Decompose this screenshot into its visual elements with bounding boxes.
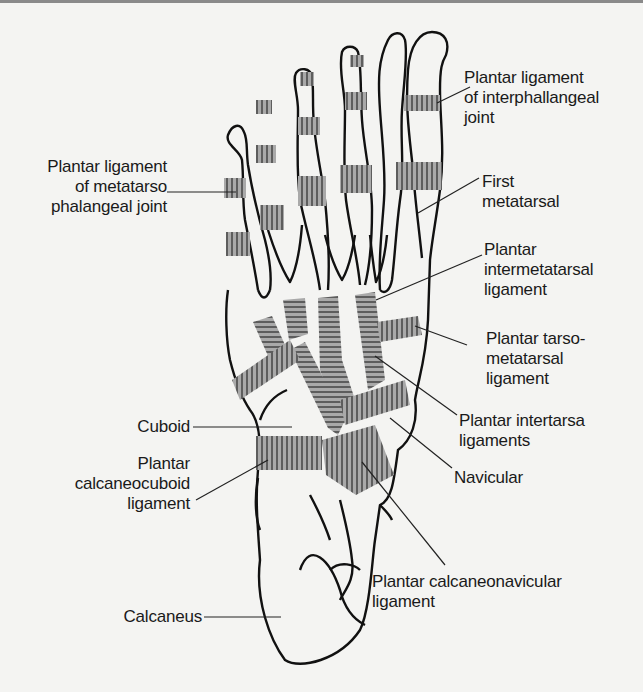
label-calcaneocuboid: Plantar calcaneocuboid ligament bbox=[40, 454, 190, 514]
toe-ligaments bbox=[224, 55, 442, 256]
label-navicular: Navicular bbox=[454, 468, 523, 488]
label-calcaneus: Calcaneus bbox=[60, 607, 202, 627]
label-tarsometatarsal: Plantar tarso- metatarsal ligament bbox=[486, 329, 585, 389]
label-cuboid: Cuboid bbox=[100, 417, 190, 437]
label-first-metatarsal: First metatarsal bbox=[482, 172, 559, 212]
label-interphalangeal: Plantar ligament of interphallangeal joi… bbox=[464, 68, 599, 128]
label-intertarsal: Plantar intertarsa ligaments bbox=[459, 411, 585, 451]
label-intermetatarsal: Plantar intermetatarsal ligament bbox=[484, 240, 593, 300]
label-calcaneonavicular: Plantar calcaneonavicular ligament bbox=[372, 572, 562, 612]
label-metatarsophalangeal: Plantar ligament of metatarso phalangeal… bbox=[10, 157, 167, 217]
